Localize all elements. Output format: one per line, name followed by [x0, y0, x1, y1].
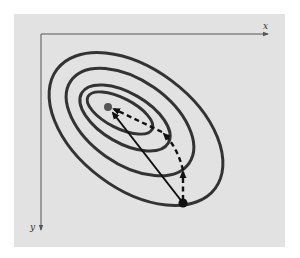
stepwise-path: [114, 109, 183, 200]
contour-1: [21, 22, 251, 237]
contour-diagram: [0, 0, 300, 258]
direct-path-arrow: [113, 113, 183, 203]
y-axis-label: y: [30, 222, 35, 232]
contour-2: [47, 46, 213, 197]
optimum-point: [104, 103, 112, 111]
contour-lines: [21, 22, 251, 237]
contour-3: [69, 71, 181, 164]
start-point: [179, 199, 188, 208]
axes: [41, 34, 268, 230]
x-axis-label: x: [263, 21, 268, 31]
dashed-step-2: [164, 134, 183, 170]
